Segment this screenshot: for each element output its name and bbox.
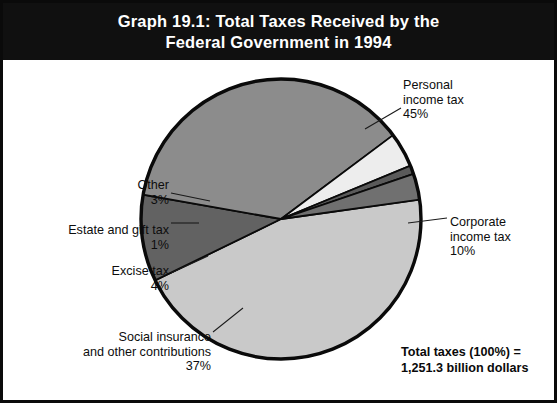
slice-label-corporate-income-tax: Corporate income tax 10%: [450, 215, 511, 259]
slice-label-social-line-2: and other contributions: [51, 345, 211, 360]
figure-title-bar: Graph 19.1: Total Taxes Received by the …: [3, 3, 554, 60]
total-taxes-note: Total taxes (100%) = 1,251.3 billion dol…: [401, 345, 528, 376]
slice-label-excise-tax: Excise tax 4%: [63, 264, 169, 293]
slice-label-personal-value: 45%: [403, 107, 464, 122]
slice-label-personal-line-1: Personal: [403, 78, 464, 93]
slice-label-social-line-1: Social insurance: [51, 330, 211, 345]
total-taxes-note-line-2: 1,251.3 billion dollars: [401, 361, 528, 377]
graph-figure: Graph 19.1: Total Taxes Received by the …: [0, 0, 557, 403]
slice-label-other: Other 3%: [89, 178, 169, 207]
chart-plot-area: Personal income tax 45% Corporate income…: [3, 60, 554, 400]
slice-label-other-line-1: Other: [89, 178, 169, 193]
slice-label-estate-value: 1%: [15, 238, 169, 253]
slice-label-corporate-value: 10%: [450, 244, 511, 259]
slice-label-excise-line-1: Excise tax: [63, 264, 169, 279]
slice-label-excise-value: 4%: [63, 279, 169, 294]
pie-chart: [138, 76, 424, 362]
slice-label-corporate-line-1: Corporate: [450, 215, 511, 230]
slice-label-estate-line-1: Estate and gift tax: [15, 223, 169, 238]
slice-label-social-value: 37%: [51, 359, 211, 374]
page-title-line-2: Federal Government in 1994: [165, 32, 391, 53]
pie-chart-svg: [138, 76, 424, 362]
slice-label-social-insurance: Social insurance and other contributions…: [51, 330, 211, 374]
total-taxes-note-line-1: Total taxes (100%) =: [401, 345, 528, 361]
slice-label-personal-income-tax: Personal income tax 45%: [403, 78, 464, 122]
page-title-line-1: Graph 19.1: Total Taxes Received by the: [118, 11, 440, 32]
slice-label-other-value: 3%: [89, 193, 169, 208]
slice-label-corporate-line-2: income tax: [450, 230, 511, 245]
slice-label-estate-and-gift-tax: Estate and gift tax 1%: [15, 223, 169, 252]
slice-label-personal-line-2: income tax: [403, 93, 464, 108]
